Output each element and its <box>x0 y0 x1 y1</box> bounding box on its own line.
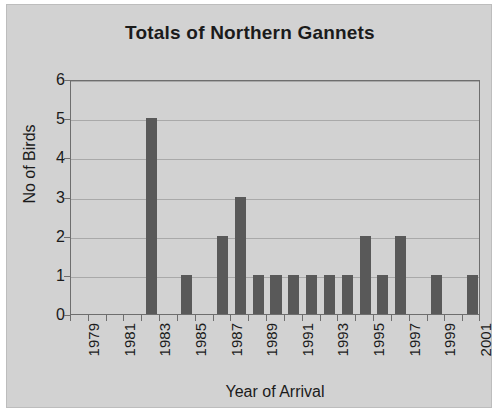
x-tick-mark <box>159 315 160 321</box>
y-tick-mark <box>64 158 70 159</box>
y-tick-mark <box>64 237 70 238</box>
chart-screenshot: Totals of Northern Gannets No of Birds 0… <box>0 0 498 416</box>
bar <box>270 275 281 314</box>
x-axis-tick-marks <box>70 315 480 322</box>
x-tick-label: 1979 <box>85 323 102 356</box>
x-tick-mark <box>230 315 231 321</box>
x-tick-mark <box>213 315 214 321</box>
x-tick-mark <box>373 315 374 321</box>
bar <box>431 275 442 314</box>
y-tick-mark <box>64 80 70 81</box>
x-tick-label: 2001 <box>477 323 494 356</box>
bar <box>342 275 353 314</box>
bar <box>324 275 335 314</box>
x-tick-mark <box>479 315 480 321</box>
y-tick-mark <box>64 276 70 277</box>
x-tick-mark <box>141 315 142 321</box>
x-tick-mark <box>462 315 463 321</box>
x-tick-label: 1991 <box>299 323 316 356</box>
x-tick-label: 1995 <box>370 323 387 356</box>
bar <box>146 118 157 314</box>
x-tick-mark <box>195 315 196 321</box>
bar <box>377 275 388 314</box>
bar <box>467 275 478 314</box>
y-tick-mark <box>64 315 70 316</box>
x-tick-label: 1997 <box>406 323 423 356</box>
x-tick-label: 1981 <box>121 323 138 356</box>
x-tick-mark <box>248 315 249 321</box>
x-tick-mark <box>302 315 303 321</box>
bar <box>217 236 228 314</box>
bar <box>253 275 264 314</box>
x-tick-label: 1993 <box>334 323 351 356</box>
x-tick-label: 1985 <box>192 323 209 356</box>
x-axis-title: Year of Arrival <box>70 383 480 401</box>
bar <box>181 275 192 314</box>
x-tick-mark <box>266 315 267 321</box>
chart-title: Totals of Northern Gannets <box>7 22 493 44</box>
x-tick-mark <box>320 315 321 321</box>
x-tick-mark <box>177 315 178 321</box>
plot-area <box>70 80 480 315</box>
x-tick-label: 1999 <box>441 323 458 356</box>
x-tick-mark <box>427 315 428 321</box>
chart-canvas: Totals of Northern Gannets No of Birds 0… <box>6 4 492 408</box>
bar <box>395 236 406 314</box>
x-tick-mark <box>409 315 410 321</box>
bar-series <box>71 81 479 314</box>
x-tick-mark <box>123 315 124 321</box>
x-tick-label: 1987 <box>228 323 245 356</box>
x-axis-tick-labels: 1979198119831985198719891991199319951997… <box>70 323 480 379</box>
bar <box>288 275 299 314</box>
bar <box>306 275 317 314</box>
y-tick-mark <box>64 198 70 199</box>
bar <box>360 236 371 314</box>
x-tick-mark <box>106 315 107 321</box>
x-tick-mark <box>70 315 71 321</box>
x-tick-mark <box>284 315 285 321</box>
x-tick-mark <box>444 315 445 321</box>
x-tick-mark <box>88 315 89 321</box>
x-tick-mark <box>391 315 392 321</box>
x-tick-label: 1989 <box>263 323 280 356</box>
x-tick-mark <box>337 315 338 321</box>
bar <box>235 197 246 315</box>
x-tick-mark <box>355 315 356 321</box>
x-tick-label: 1983 <box>156 323 173 356</box>
y-axis-tick-labels: 0123456 <box>35 80 65 315</box>
y-tick-mark <box>64 119 70 120</box>
